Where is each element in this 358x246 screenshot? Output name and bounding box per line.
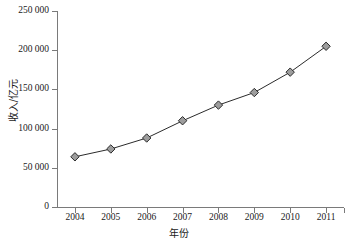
series-markers <box>71 42 331 161</box>
x-axis-title: 年份 <box>0 228 358 239</box>
data-point-marker <box>71 153 79 161</box>
data-point-marker <box>178 117 186 125</box>
data-series-layer <box>0 0 358 246</box>
series-line-revenue <box>75 46 326 157</box>
y-axis-title: 收入/亿元 <box>8 61 19 141</box>
data-point-marker <box>214 101 222 109</box>
data-point-marker <box>107 145 115 153</box>
line-chart: 050 000100 000150 000200 000250 000 2004… <box>0 0 358 246</box>
data-point-marker <box>142 134 150 142</box>
data-point-marker <box>286 68 294 76</box>
data-point-marker <box>250 88 258 96</box>
data-point-marker <box>322 42 330 50</box>
